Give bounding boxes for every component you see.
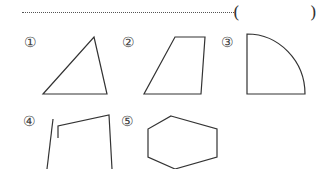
- option-3-quarter-circle-shape[interactable]: [247, 34, 305, 94]
- option-1-triangle-shape[interactable]: [43, 37, 107, 94]
- option-5-hexagon-shape[interactable]: [148, 116, 217, 169]
- option-4-open-figure-shape[interactable]: [47, 115, 112, 169]
- option-2-trapezoid-shape[interactable]: [144, 37, 205, 94]
- figures-canvas: [0, 0, 327, 169]
